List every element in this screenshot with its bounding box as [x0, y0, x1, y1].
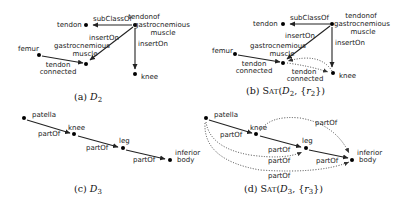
- label-leg: leg: [119, 137, 130, 145]
- label-knee: knee: [68, 124, 85, 132]
- caption-c: (c) D3: [74, 183, 102, 196]
- caption-b: (b) Sat(D2, {r2}): [246, 85, 325, 98]
- label-knee: knee: [141, 73, 158, 81]
- label-gastrocnemious: gastrocnemious: [334, 20, 390, 28]
- figure-canvas: tendon subClassOf tendonof gastrocnemiou…: [0, 0, 406, 210]
- label-partof-1: partOf: [38, 130, 61, 138]
- label-body: body: [359, 156, 376, 164]
- label-tendon: tendon: [253, 20, 278, 28]
- label-inserton-2: insertOn: [335, 39, 365, 47]
- label-inserton-2: insertOn: [138, 40, 168, 48]
- node-tendon: [84, 23, 88, 27]
- label-connected-edge: connected: [40, 68, 77, 76]
- label-partof-2: partOf: [86, 144, 109, 152]
- label-gastrocnemious-2: gastrocnemious: [54, 42, 110, 50]
- panel-b: tendon subClassOf tendonof gastrocnemiou…: [212, 12, 390, 98]
- label-connected-edge-2: connected: [287, 75, 324, 83]
- label-femur: femur: [18, 45, 39, 53]
- caption-a: (a) D2: [74, 91, 102, 104]
- node-patella: [22, 116, 26, 120]
- label-subclassof: subClassOf: [290, 14, 329, 22]
- label-connected-edge: connected: [236, 67, 273, 75]
- label-tendonof: tendonof: [128, 13, 160, 21]
- label-knee: knee: [339, 72, 356, 80]
- label-gastrocnemious: gastrocnemious: [134, 21, 190, 29]
- node-leg: [304, 146, 308, 150]
- label-partof-inferred-3: partOf: [268, 172, 291, 180]
- panel-d: patella knee leg inferior body partOf pa…: [204, 111, 382, 196]
- node-leg: [121, 146, 125, 150]
- label-inserton-1: insertOn: [89, 34, 119, 42]
- panel-c: patella knee leg inferior body partOf pa…: [22, 111, 200, 196]
- label-gastrocnemious-2: gastrocnemious: [250, 42, 306, 50]
- label-partof-inferred-1: partOf: [315, 119, 338, 127]
- label-body: body: [177, 156, 194, 164]
- label-partof-3: partOf: [316, 157, 339, 165]
- node-gastrocnemious-muscle: [84, 62, 88, 66]
- label-tendonof: tendonof: [345, 12, 377, 20]
- panel-a: tendon subClassOf tendonof gastrocnemiou…: [18, 13, 190, 104]
- label-partof-1: partOf: [220, 131, 243, 139]
- label-partof-2: partOf: [268, 146, 291, 154]
- label-muscle: muscle: [150, 29, 175, 37]
- label-partof-inferred-2: partOf: [268, 157, 291, 165]
- node-knee: [331, 71, 335, 75]
- node-inferior-body: [350, 158, 354, 162]
- label-patella: patella: [214, 111, 238, 119]
- caption-d: (d) Sat(D3, {r3}): [244, 183, 323, 196]
- label-leg: leg: [302, 137, 313, 145]
- node-femur: [233, 52, 237, 56]
- node-inferior-body: [168, 158, 172, 162]
- label-femur: femur: [212, 47, 233, 55]
- node-patella: [204, 116, 208, 120]
- label-muscle-2: muscle: [72, 50, 97, 58]
- label-muscle-2: muscle: [269, 50, 294, 58]
- label-muscle: muscle: [350, 28, 375, 36]
- label-inserton-1: insertOn: [285, 32, 315, 40]
- label-knee: knee: [250, 124, 267, 132]
- label-patella: patella: [32, 111, 56, 119]
- label-partof-3: partOf: [133, 156, 156, 164]
- node-tendon: [281, 22, 285, 26]
- node-knee: [133, 72, 137, 76]
- label-tendon: tendon: [57, 21, 82, 29]
- node-femur: [37, 53, 41, 57]
- node-knee: [254, 132, 258, 136]
- label-subclassof: subClassOf: [93, 15, 132, 23]
- node-knee: [72, 132, 76, 136]
- node-gastrocnemious-muscle: [281, 61, 285, 65]
